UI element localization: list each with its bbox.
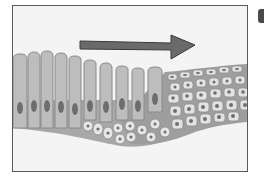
metaplasia-diagram bbox=[0, 0, 264, 188]
columnar-cells bbox=[13, 51, 162, 128]
arrow-right-icon bbox=[80, 35, 195, 59]
